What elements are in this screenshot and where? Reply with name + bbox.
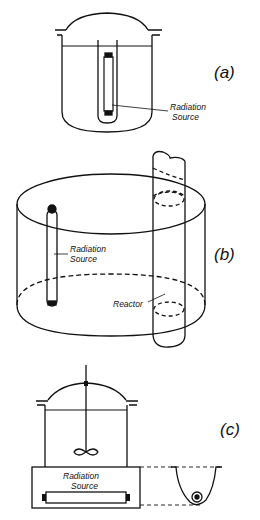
panel-b-tag: (b)	[214, 245, 235, 264]
panel-a-vessel	[55, 13, 168, 132]
panel-c-tag: (c)	[220, 420, 240, 439]
panel-c-label-radiation: Radiation	[63, 471, 99, 481]
panel-a-tag: (a)	[214, 63, 235, 82]
panel-a-label-radiation: Radiation	[170, 102, 206, 112]
panel-b-label-source: Source	[70, 254, 97, 264]
panel-c-label-source: Source	[71, 481, 98, 491]
panel-c-stirred-vessel	[32, 365, 222, 508]
panel-b-label-radiation: Radiation	[70, 244, 106, 254]
panel-b-label-reactor: Reactor	[113, 299, 144, 309]
panel-a-label-source: Source	[172, 112, 199, 122]
irradiation-setups-diagram: Radiation Source (a) Radiation Source Re…	[0, 0, 260, 520]
panel-b-tank	[17, 152, 205, 348]
